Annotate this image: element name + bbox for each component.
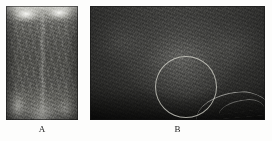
region-of-interest-circle-annotation [155, 56, 217, 118]
figure-root: A B [0, 0, 272, 141]
panel-a-vignette [6, 6, 78, 120]
panel-a-caption: A [6, 124, 78, 135]
panel-b-image [90, 6, 265, 120]
panel-a-image [6, 6, 78, 120]
panel-b-caption: B [90, 124, 265, 135]
